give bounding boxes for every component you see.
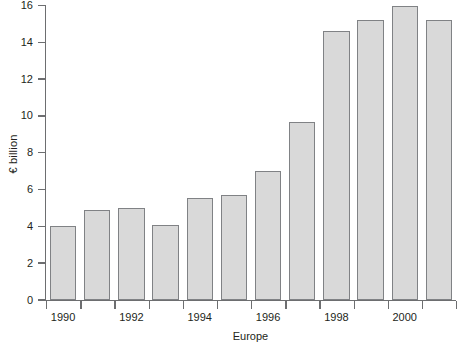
- x-tick-label-1996: 1996: [243, 312, 293, 323]
- bar-1999: [357, 20, 383, 300]
- y-tick-label-12: 12: [0, 74, 33, 85]
- x-tick-2: [114, 301, 115, 309]
- y-tick-label-14: 14: [0, 37, 33, 48]
- y-tick-12: [38, 78, 45, 79]
- y-tick-16: [38, 5, 45, 6]
- y-tick-label-0: 0: [0, 295, 33, 306]
- x-tick-4: [183, 301, 184, 309]
- x-tick-label-2000: 2000: [380, 312, 430, 323]
- x-tick-label-1992: 1992: [106, 312, 156, 323]
- y-tick-4: [38, 226, 45, 227]
- bar-1990: [50, 226, 76, 300]
- x-tick-label-1998: 1998: [311, 312, 361, 323]
- y-tick-6: [38, 189, 45, 190]
- bar-1998: [323, 31, 349, 300]
- bar-1991: [84, 210, 110, 300]
- x-tick-end: [456, 301, 457, 309]
- bar-1997: [289, 122, 315, 300]
- x-axis-title: Europe: [45, 330, 456, 342]
- y-tick-label-2: 2: [0, 258, 33, 269]
- y-tick-label-4: 4: [0, 221, 33, 232]
- bar-1996: [255, 171, 281, 300]
- y-tick-2: [38, 262, 45, 263]
- bar-1995: [221, 195, 247, 300]
- x-tick-label-1990: 1990: [38, 312, 88, 323]
- y-axis-line: [45, 5, 46, 301]
- y-tick-8: [38, 152, 45, 153]
- x-tick-5: [217, 301, 218, 309]
- bar-2001: [426, 20, 452, 300]
- y-tick-14: [38, 42, 45, 43]
- y-tick-0: [38, 299, 45, 300]
- y-tick-label-10: 10: [0, 110, 33, 121]
- bar-1993: [152, 225, 178, 300]
- x-tick-10: [388, 301, 389, 309]
- y-tick-label-8: 8: [0, 147, 33, 158]
- x-tick-3: [149, 301, 150, 309]
- x-tick-8: [319, 301, 320, 309]
- y-tick-label-6: 6: [0, 184, 33, 195]
- y-tick-label-16: 16: [0, 0, 33, 11]
- bar-chart: € billion 0246810121416 1990199219941996…: [0, 0, 470, 344]
- bar-1992: [118, 208, 144, 300]
- bar-2000: [392, 6, 418, 300]
- x-tick-11: [422, 301, 423, 309]
- x-tick-7: [285, 301, 286, 309]
- bar-1994: [187, 198, 213, 300]
- x-tick-6: [251, 301, 252, 309]
- x-tick-0: [46, 301, 47, 309]
- x-tick-label-1994: 1994: [175, 312, 225, 323]
- x-tick-1: [80, 301, 81, 309]
- y-tick-10: [38, 115, 45, 116]
- x-tick-9: [354, 301, 355, 309]
